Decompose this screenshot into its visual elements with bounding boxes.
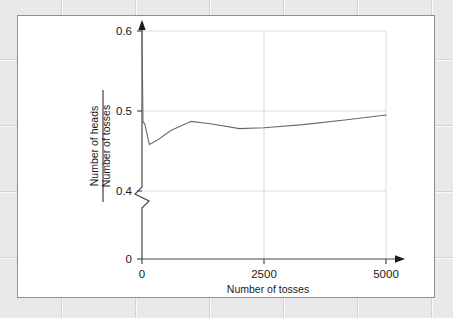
coin-toss-line-chart: 0.6 0.5 0.4 0 0 2500 5000 Number of toss… [18, 16, 434, 297]
vertical-gridlines [264, 31, 386, 259]
y-axis-title: Number of heads Number of tosses [88, 90, 112, 202]
y-axis-arrowhead-icon [138, 20, 145, 30]
x-axis-tick-labels: 0 2500 5000 [139, 268, 399, 280]
xtick-label-2500: 2500 [251, 268, 277, 280]
x-axis-title: Number of tosses [227, 283, 309, 295]
x-axis [142, 255, 405, 262]
y-axis-title-denominator: Number of tosses [100, 105, 112, 187]
ytick-label-0.4: 0.4 [116, 185, 133, 197]
y-axis-title-numerator: Number of heads [88, 106, 100, 187]
x-axis-arrowhead-icon [395, 255, 405, 262]
chart-panel: 0.6 0.5 0.4 0 0 2500 5000 Number of toss… [17, 15, 435, 298]
y-axis-tick-labels: 0.6 0.5 0.4 0 [116, 25, 133, 265]
y-axis-break-zigzag [135, 182, 149, 212]
xtick-label-0: 0 [139, 268, 145, 280]
y-axis-ticks [137, 31, 142, 259]
xtick-label-5000: 5000 [373, 268, 399, 280]
x-axis-ticks [142, 259, 386, 264]
ytick-label-0.6: 0.6 [116, 25, 132, 37]
ytick-label-0: 0 [126, 253, 132, 265]
ytick-label-0.5: 0.5 [116, 105, 132, 117]
